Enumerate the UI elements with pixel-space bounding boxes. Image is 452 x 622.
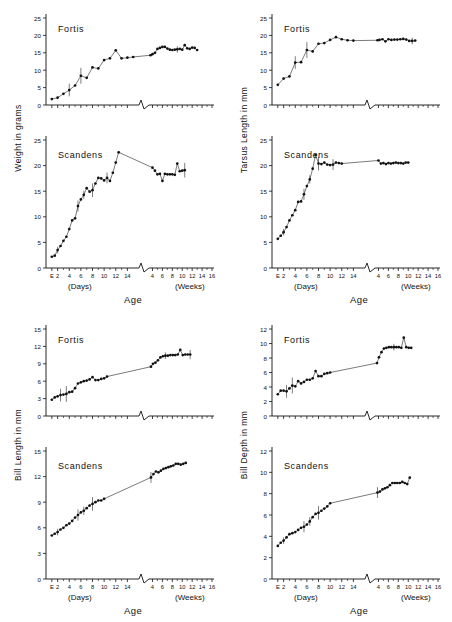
tarsus-plot: 05101520250510152025E2468101214468101214…: [226, 0, 452, 311]
weight-scandens-label: Scandens: [58, 150, 103, 160]
svg-text:0: 0: [264, 576, 268, 583]
svg-text:25: 25: [34, 137, 41, 144]
svg-text:25: 25: [260, 137, 267, 144]
svg-text:2: 2: [264, 554, 268, 561]
svg-text:10: 10: [260, 469, 267, 476]
svg-text:4: 4: [294, 273, 298, 279]
svg-text:12: 12: [113, 273, 119, 279]
svg-text:6: 6: [161, 273, 164, 279]
panel-bill-depth: 024681012024681012E246810121446810121416…: [226, 311, 452, 622]
bill-depth-x-axis-title: Age: [350, 605, 368, 616]
svg-text:9: 9: [38, 360, 42, 367]
svg-text:12: 12: [339, 584, 345, 590]
bill-depth-fortis-label: Fortis: [284, 335, 310, 345]
svg-text:4: 4: [377, 273, 381, 279]
svg-text:4: 4: [151, 273, 155, 279]
svg-text:4: 4: [264, 533, 268, 540]
svg-text:6: 6: [264, 369, 268, 376]
svg-text:5: 5: [264, 239, 268, 246]
svg-text:12: 12: [260, 326, 267, 333]
bill-length-plot: 0369121503691215E246810121446810121416: [0, 311, 226, 622]
svg-text:10: 10: [327, 584, 333, 590]
svg-text:10: 10: [260, 213, 267, 220]
svg-text:15: 15: [34, 326, 41, 333]
weight-days-group-label: (Days): [68, 282, 92, 291]
figure-grid: 05101520250510152025E2468101214468101214…: [0, 0, 452, 622]
svg-text:14: 14: [425, 273, 432, 279]
svg-text:0: 0: [264, 102, 268, 109]
svg-text:E: E: [276, 273, 280, 279]
svg-text:0: 0: [264, 413, 268, 420]
svg-text:12: 12: [415, 273, 421, 279]
bill-length-scandens-label: Scandens: [58, 461, 103, 471]
svg-text:5: 5: [264, 84, 268, 91]
svg-text:12: 12: [113, 584, 119, 590]
svg-text:20: 20: [34, 162, 41, 169]
svg-text:10: 10: [179, 273, 185, 279]
svg-text:3: 3: [38, 395, 42, 402]
svg-text:0: 0: [264, 265, 268, 272]
svg-text:8: 8: [171, 273, 174, 279]
svg-text:2: 2: [56, 273, 59, 279]
tarsus-scandens-label: Scandens: [284, 150, 329, 160]
bill-depth-days-group-label: (Days): [294, 593, 318, 602]
panel-bill-length: 0369121503691215E246810121446810121416 B…: [0, 311, 226, 622]
tarsus-x-axis-title: Age: [350, 294, 368, 305]
svg-text:16: 16: [209, 584, 215, 590]
svg-text:10: 10: [260, 67, 267, 74]
svg-text:10: 10: [101, 584, 107, 590]
svg-text:0: 0: [38, 413, 42, 420]
svg-text:6: 6: [305, 584, 308, 590]
weight-y-axis-label: Weight in grams: [13, 58, 23, 218]
panel-tarsus-length: 05101520250510152025E2468101214468101214…: [226, 0, 452, 311]
weight-fortis-label: Fortis: [58, 24, 84, 34]
svg-text:10: 10: [34, 67, 41, 74]
svg-text:14: 14: [124, 273, 131, 279]
bill-length-weeks-group-label: (Weeks): [175, 593, 205, 602]
svg-text:0: 0: [38, 102, 42, 109]
svg-text:6: 6: [79, 273, 82, 279]
svg-text:20: 20: [260, 162, 267, 169]
svg-text:4: 4: [68, 273, 72, 279]
svg-text:20: 20: [34, 32, 41, 39]
svg-text:6: 6: [387, 273, 390, 279]
svg-text:16: 16: [209, 273, 215, 279]
bill-depth-scandens-label: Scandens: [284, 461, 329, 471]
tarsus-fortis-label: Fortis: [284, 24, 310, 34]
svg-text:12: 12: [34, 343, 41, 350]
svg-text:5: 5: [38, 84, 42, 91]
tarsus-days-group-label: (Days): [294, 282, 318, 291]
svg-text:15: 15: [34, 49, 41, 56]
svg-text:10: 10: [179, 584, 185, 590]
svg-text:12: 12: [34, 473, 41, 480]
svg-text:4: 4: [377, 584, 381, 590]
svg-text:14: 14: [124, 584, 131, 590]
svg-text:2: 2: [282, 584, 285, 590]
svg-text:14: 14: [350, 584, 357, 590]
svg-text:E: E: [50, 273, 54, 279]
bill-depth-plot: 024681012024681012E246810121446810121416: [226, 311, 452, 622]
svg-text:8: 8: [397, 584, 400, 590]
svg-text:8: 8: [317, 273, 320, 279]
svg-text:12: 12: [189, 584, 195, 590]
svg-text:8: 8: [91, 273, 94, 279]
svg-text:8: 8: [397, 273, 400, 279]
panel-weight: 05101520250510152025E2468101214468101214…: [0, 0, 226, 311]
svg-text:10: 10: [327, 273, 333, 279]
svg-text:12: 12: [339, 273, 345, 279]
svg-text:8: 8: [171, 584, 174, 590]
svg-text:6: 6: [264, 512, 268, 519]
bill-depth-y-axis-label: Bill Depth in mm: [239, 365, 249, 525]
bill-depth-weeks-group-label: (Weeks): [401, 593, 431, 602]
svg-text:8: 8: [264, 355, 268, 362]
bill-length-x-axis-title: Age: [124, 605, 142, 616]
tarsus-weeks-group-label: (Weeks): [401, 282, 431, 291]
svg-text:25: 25: [34, 15, 41, 22]
svg-text:14: 14: [425, 584, 432, 590]
svg-text:6: 6: [38, 524, 42, 531]
svg-text:2: 2: [282, 273, 285, 279]
svg-text:8: 8: [91, 584, 94, 590]
svg-text:6: 6: [79, 584, 82, 590]
svg-text:0: 0: [38, 576, 42, 583]
svg-text:12: 12: [189, 273, 195, 279]
